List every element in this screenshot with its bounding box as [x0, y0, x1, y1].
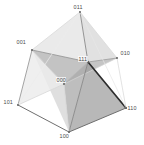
- cube-vertex-001: [31, 49, 33, 51]
- vertex-label-100: 100: [59, 133, 69, 139]
- vertex-label-011: 011: [73, 4, 83, 10]
- vertex-label-110: 110: [127, 105, 137, 111]
- cube-vertex-010: [116, 57, 118, 59]
- vertex-label-001: 001: [16, 39, 26, 45]
- vertex-label-101: 101: [3, 99, 13, 105]
- vertex-label-111: 111: [78, 56, 88, 62]
- cube-diagram-figure: 011001010111000101110100: [0, 0, 144, 145]
- cube-vertex-101: [17, 104, 19, 106]
- vertex-label-000: 000: [56, 77, 66, 83]
- cube-vertex-011: [79, 11, 81, 13]
- cube-diagram-canvas: [0, 0, 144, 145]
- vertex-label-010: 010: [120, 50, 130, 56]
- cube-vertex-000: [63, 83, 65, 85]
